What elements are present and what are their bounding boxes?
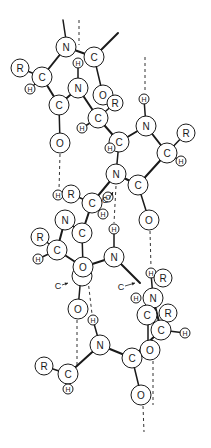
hydrogen-bond-4 — [150, 231, 151, 267]
atom-h-h14: H — [88, 315, 98, 325]
carbon-pointer-label-0: C — [55, 281, 62, 291]
atom-h-h8: H — [98, 209, 108, 219]
atom-h-h2: H — [73, 58, 83, 68]
atom-c-c2: C — [49, 95, 69, 115]
atom-label: H — [75, 60, 80, 67]
atom-label: N — [149, 293, 156, 304]
atom-label: C — [88, 198, 95, 209]
atom-label: R — [36, 232, 43, 243]
atom-label: C — [115, 137, 122, 148]
atom-c-c7: C — [122, 348, 142, 368]
atom-c-ca3: C — [157, 143, 177, 163]
atom-label: H — [35, 256, 40, 263]
atom-label: O — [79, 262, 87, 273]
atom-label: N — [74, 83, 81, 94]
atom-n-n1: N — [56, 37, 76, 57]
atom-c-c5: C — [72, 223, 92, 243]
atom-label: O — [56, 138, 64, 149]
atom-r-r1: R — [11, 59, 29, 77]
atom-h-h13: H — [180, 328, 190, 338]
atom-label: H — [55, 192, 60, 199]
atom-label: C — [163, 148, 170, 159]
atom-label: O — [146, 345, 154, 356]
atom-label: C — [143, 310, 150, 321]
atom-label: O — [145, 215, 153, 226]
atom-r-r5: R — [31, 228, 49, 246]
atom-label: R — [159, 273, 166, 284]
atom-r-r6: R — [154, 269, 172, 287]
atom-label: C — [55, 100, 62, 111]
atom-label: N — [62, 42, 69, 53]
atom-label: H — [133, 295, 138, 302]
atom-r-r3: R — [177, 124, 195, 142]
atom-n-n2: N — [68, 78, 88, 98]
atom-label: C — [90, 52, 97, 63]
atom-label: H — [178, 158, 183, 165]
atom-o-o8: O — [131, 385, 151, 405]
atom-label: N — [61, 215, 68, 226]
atom-label: C — [128, 353, 135, 364]
atom-h-h12: H — [131, 293, 141, 303]
atom-label: N — [110, 252, 117, 263]
atom-c-ca6: C — [151, 320, 171, 340]
atom-label: C — [78, 228, 85, 239]
atom-label: C — [157, 325, 164, 336]
atom-c-ca1: C — [32, 67, 52, 87]
carbon-pointer-label-1: C — [118, 282, 125, 292]
atom-h-h4: H — [105, 143, 115, 153]
atom-label: H — [107, 145, 112, 152]
atom-label: H — [79, 125, 84, 132]
atom-h-h15: H — [63, 384, 73, 394]
atom-label: H — [100, 211, 105, 218]
atom-label: C — [134, 180, 141, 191]
atom-n-n3: N — [136, 116, 156, 136]
atom-n-n6: N — [104, 247, 124, 267]
atom-label: H — [111, 226, 116, 233]
atom-label: N — [142, 121, 149, 132]
hydrogen-bond-3 — [114, 186, 116, 223]
atom-h-h6: H — [176, 156, 186, 166]
atom-label: H — [27, 86, 32, 93]
atom-label: R — [67, 189, 74, 200]
hydrogen-bond-5 — [88, 280, 92, 314]
atom-label: H — [90, 317, 95, 324]
hydrogen-bond-2 — [59, 154, 60, 190]
carbon-pointer-label-2: C — [102, 195, 109, 205]
atom-o-o2: O — [50, 133, 70, 153]
atom-h-h10: H — [33, 254, 43, 264]
atom-label: C — [94, 113, 101, 124]
atom-r-r4: R — [62, 185, 80, 203]
atom-label: O — [137, 390, 145, 401]
atom-c-c1: C — [84, 47, 104, 67]
atom-label: H — [65, 386, 70, 393]
atom-label: R — [182, 128, 189, 139]
atom-r-r7: R — [159, 304, 177, 322]
atom-o-o3: O — [139, 210, 159, 230]
atom-label: N — [96, 340, 103, 351]
atom-label: R — [111, 98, 118, 109]
atom-c-ca2: C — [88, 108, 108, 128]
atom-label: H — [182, 330, 187, 337]
atom-label: R — [16, 63, 23, 74]
atom-c-ca7: C — [58, 364, 78, 384]
atom-label: C — [53, 245, 60, 256]
atom-r-r2: R — [107, 95, 123, 111]
atom-label: R — [164, 308, 171, 319]
atom-label: O — [99, 90, 107, 101]
atom-label: C — [64, 369, 71, 380]
atom-label: R — [40, 361, 47, 372]
atom-layer: NCRCHHNCORCHOCHHNRCHNCOHRCOHNCHRCHNOHRHN… — [11, 37, 195, 405]
atom-n-n5: N — [55, 210, 75, 230]
atom-label: N — [112, 169, 119, 180]
atom-c-c6: C — [137, 305, 157, 325]
alpha-helix-diagram: NCRCHHNCORCHOCHHNRCHNCOHRCOHNCHRCHNOHRHN… — [0, 0, 211, 448]
atom-h-h9: H — [109, 224, 119, 234]
atom-c-c4: C — [128, 175, 148, 195]
atom-n-n4: N — [106, 164, 126, 184]
atom-o-o7: O — [140, 340, 160, 360]
atom-o-o6: O — [68, 299, 88, 319]
atom-label: O — [74, 304, 82, 315]
atom-c-ca5: C — [47, 240, 67, 260]
atom-label: C — [38, 72, 45, 83]
atom-o-o5: O — [73, 257, 93, 277]
